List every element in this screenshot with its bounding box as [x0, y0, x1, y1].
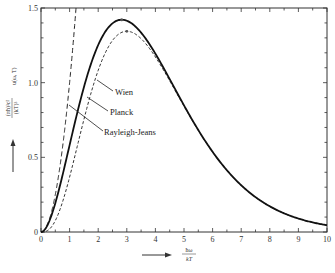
- wien-leader-line: [97, 80, 113, 91]
- y-axis-arrow-icon: [11, 139, 16, 146]
- y-tick-label: 0: [34, 228, 38, 237]
- plot-frame: [41, 8, 327, 232]
- x-tick-label: 5: [182, 235, 186, 244]
- y-axis-label-numerator: (πħ)³c²: [5, 100, 12, 116]
- x-tick-label: 1: [68, 235, 72, 244]
- x-tick-label: 2: [96, 235, 100, 244]
- y-axis-tick-labels: 00.51.01.5: [28, 4, 38, 237]
- planck-label: Planck: [110, 107, 134, 117]
- y-axis-label-suffix: u(ω, T): [11, 67, 18, 85]
- x-tick-label: 9: [296, 235, 300, 244]
- x-axis-label-denominator: kT: [186, 256, 193, 262]
- x-tick-label: 0: [39, 235, 43, 244]
- y-tick-label: 1.0: [28, 79, 38, 88]
- x-axis-ticks: [41, 8, 327, 232]
- x-tick-label: 4: [153, 235, 157, 244]
- y-axis-label-denominator: (kT)³: [13, 102, 20, 115]
- planck-peak-marker: [120, 19, 123, 22]
- rayleigh-jeans-label: Rayleigh-Jeans: [104, 127, 156, 137]
- y-axis-label: (πħ)³c² (kT)³ u(ω, T): [5, 67, 20, 118]
- rayleigh-jeans-curve: [41, 8, 76, 232]
- planck-leader-line: [87, 97, 108, 111]
- x-axis-arrow-icon: [165, 253, 172, 258]
- y-axis-ticks: [41, 8, 327, 232]
- x-tick-label: 10: [323, 235, 331, 244]
- x-axis-label-numerator: ħω: [186, 247, 193, 253]
- wien-peak-marker: [125, 30, 128, 33]
- x-tick-label: 8: [268, 235, 272, 244]
- x-tick-label: 7: [239, 235, 243, 244]
- x-tick-label: 3: [125, 235, 129, 244]
- blackbody-spectrum-chart: 012345678910 00.51.01.5 Wien Planck Rayl…: [0, 0, 335, 273]
- wien-label: Wien: [115, 87, 134, 97]
- planck-curve: [41, 20, 327, 232]
- wien-curve: [41, 31, 327, 232]
- x-tick-label: 6: [211, 235, 215, 244]
- x-axis-tick-labels: 012345678910: [39, 235, 331, 244]
- y-tick-label: 0.5: [28, 153, 38, 162]
- y-tick-label: 1.5: [28, 4, 38, 13]
